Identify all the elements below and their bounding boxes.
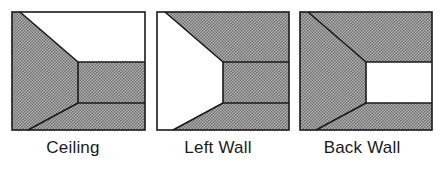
room-diagram-ceiling [0, 0, 146, 140]
room-diagram-back-wall [289, 0, 435, 140]
room-diagram-left-wall [145, 0, 291, 140]
panel-label-ceiling: Ceiling [0, 138, 146, 158]
panel-left-wall: Left Wall [145, 0, 291, 169]
back-wall-surface [366, 62, 432, 103]
panel-label-left-wall: Left Wall [145, 138, 291, 158]
back-wall-surface [78, 62, 145, 103]
panel-label-back-wall: Back Wall [289, 138, 435, 158]
panel-back-wall: Back Wall [289, 0, 435, 169]
back-wall-surface [223, 62, 289, 103]
panel-ceiling: Ceiling [0, 0, 146, 169]
